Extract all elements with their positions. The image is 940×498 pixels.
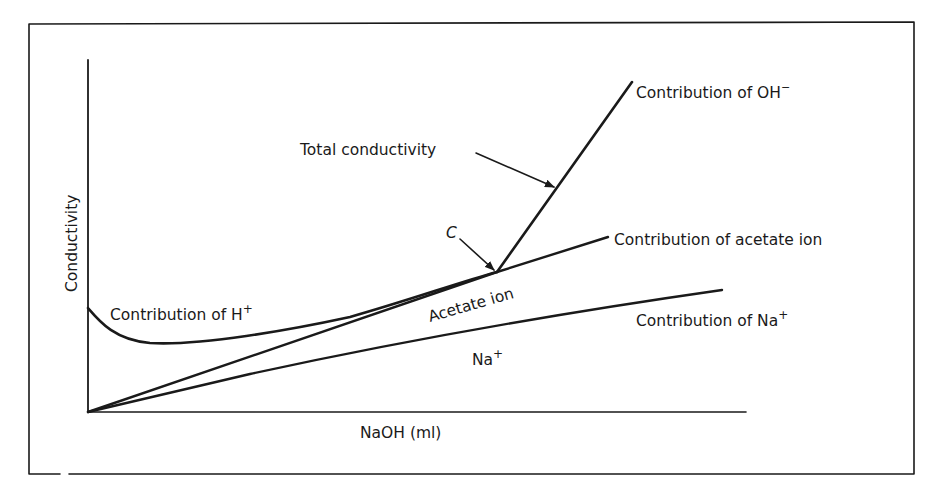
y-axis-label: Conductivity <box>63 195 81 292</box>
oh-contribution-line <box>497 82 632 272</box>
na-ion-label: Na+ <box>472 347 503 369</box>
na-contribution-label: Contribution of Na+ <box>636 308 788 330</box>
conductometric-titration-diagram: Conductivity NaOH (ml) Total conductivit… <box>0 0 940 498</box>
h-contribution-label: Contribution of H+ <box>110 302 253 324</box>
acetate-contribution-label: Contribution of acetate ion <box>614 231 822 249</box>
x-axis-label: NaOH (ml) <box>360 424 441 442</box>
total-conductivity-label: Total conductivity <box>299 141 436 159</box>
point-c-arrow <box>460 239 494 270</box>
total-conductivity-arrow <box>476 153 554 187</box>
point-c-label: C <box>446 224 457 242</box>
oh-contribution-label: Contribution of OH− <box>636 81 790 102</box>
acetate-contribution-line <box>88 237 608 412</box>
